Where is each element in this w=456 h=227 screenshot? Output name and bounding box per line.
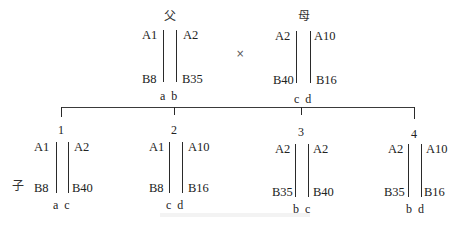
father-chromosome-left <box>163 30 164 82</box>
child-allele-right-top: A10 <box>426 143 448 156</box>
child-allele-left-top: A2 <box>388 143 403 156</box>
faded-caption <box>160 213 310 217</box>
child-allele-right-top: A2 <box>74 141 89 154</box>
child-chromosome-right <box>182 142 183 193</box>
child-allele-left-bottom: B35 <box>272 186 293 199</box>
child-allele-left-bottom: B35 <box>384 186 405 199</box>
bracket-drop-4 <box>414 107 415 119</box>
mother-allele-right-bottom: B16 <box>316 74 337 87</box>
mother-chromosome-right <box>310 31 311 83</box>
mother-title: 母 <box>298 10 310 22</box>
child-allele-left-top: A1 <box>149 141 164 154</box>
child-allele-left-bottom: B8 <box>34 182 49 195</box>
child-number: 3 <box>298 126 304 138</box>
mother-chromosome-left <box>296 31 297 83</box>
child-number: 1 <box>58 124 64 136</box>
bracket-drop-3 <box>301 107 302 115</box>
offspring-label: 子 <box>12 180 24 192</box>
child-chromosome-right <box>308 144 309 197</box>
child-allele-right-bottom: B16 <box>188 182 209 195</box>
child-allele-right-bottom: B40 <box>72 182 93 195</box>
child-allele-right-bottom: B40 <box>313 186 334 199</box>
child-chromosome-labels: a c <box>53 199 70 211</box>
father-allele-left-top: A1 <box>142 29 157 42</box>
child-chromosome-left <box>295 144 296 197</box>
mother-allele-left-bottom: B40 <box>273 74 294 87</box>
child-chromosome-right <box>421 144 422 197</box>
father-allele-right-top: A2 <box>183 29 198 42</box>
child-chromosome-left <box>169 142 170 193</box>
child-number: 2 <box>171 124 177 136</box>
mother-allele-right-top: A10 <box>314 30 336 43</box>
child-number: 4 <box>411 128 417 140</box>
bracket-drop-2 <box>174 107 175 115</box>
child-allele-left-bottom: B8 <box>149 182 164 195</box>
child-allele-right-bottom: B16 <box>424 186 445 199</box>
child-allele-right-top: A10 <box>188 141 210 154</box>
child-chromosome-left <box>56 142 57 193</box>
father-title: 父 <box>164 10 176 22</box>
child-chromosome-left <box>408 144 409 197</box>
child-chromosome-right <box>68 142 69 193</box>
father-chromosome-labels: a b <box>160 90 177 102</box>
offspring-bracket <box>61 107 415 108</box>
child-chromosome-labels: b d <box>406 203 424 215</box>
bracket-drop-1 <box>61 107 62 117</box>
mother-chromosome-labels: c d <box>294 93 311 105</box>
child-allele-right-top: A2 <box>313 143 328 156</box>
child-allele-left-top: A1 <box>34 141 49 154</box>
father-chromosome-right <box>176 30 177 82</box>
child-allele-left-top: A2 <box>275 143 290 156</box>
father-allele-left-bottom: B8 <box>142 73 157 86</box>
cross-symbol: × <box>236 48 244 59</box>
mother-allele-left-top: A2 <box>275 30 290 43</box>
father-allele-right-bottom: B35 <box>182 73 203 86</box>
child-chromosome-labels: c d <box>166 199 183 211</box>
